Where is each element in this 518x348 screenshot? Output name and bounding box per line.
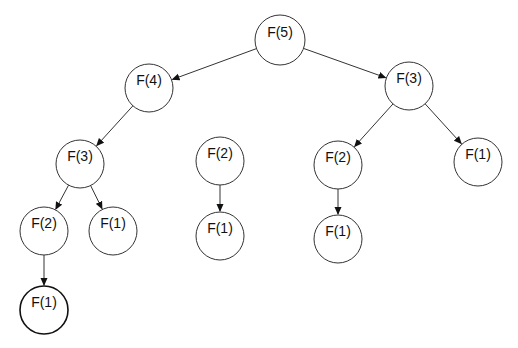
fibonacci-recursion-tree: F(5)F(4)F(3)F(3)F(2)F(2)F(1)F(2)F(1)F(1)… (0, 0, 518, 348)
tree-node: F(2) (314, 141, 362, 189)
edge-arrow (173, 49, 257, 80)
tree-node: F(3) (385, 62, 433, 110)
tree-node: F(2) (20, 207, 68, 255)
edge-arrow (355, 104, 393, 146)
node-label: F(2) (31, 215, 57, 231)
edge-arrow (56, 185, 69, 209)
node-label: F(1) (465, 146, 491, 162)
tree-node: F(1) (89, 207, 137, 255)
nodes: F(5)F(4)F(3)F(3)F(2)F(2)F(1)F(2)F(1)F(1)… (20, 15, 502, 334)
edge-arrow (425, 104, 461, 144)
tree-node: F(2) (196, 137, 244, 185)
tree-node: F(1) (20, 286, 68, 334)
edge-arrow (91, 186, 102, 209)
tree-node: F(3) (56, 140, 104, 188)
node-label: F(1) (100, 215, 126, 231)
node-label: F(5) (267, 24, 293, 40)
tree-node: F(1) (454, 138, 502, 186)
node-label: F(1) (325, 223, 351, 239)
tree-node: F(1) (196, 212, 244, 260)
node-label: F(2) (325, 149, 351, 165)
tree-node: F(1) (314, 215, 362, 263)
node-label: F(3) (67, 148, 93, 164)
tree-node: F(5) (255, 15, 305, 65)
edge-arrow (304, 48, 386, 77)
node-label: F(1) (31, 294, 57, 310)
edge-arrow (97, 106, 133, 146)
node-label: F(4) (136, 72, 162, 88)
tree-node: F(4) (125, 64, 173, 112)
node-label: F(3) (396, 70, 422, 86)
node-circle (255, 15, 305, 65)
node-label: F(2) (207, 145, 233, 161)
node-label: F(1) (207, 220, 233, 236)
